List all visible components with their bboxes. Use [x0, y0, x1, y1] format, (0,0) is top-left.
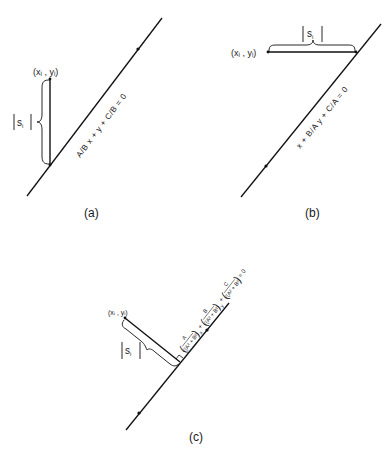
distance-segment-c	[125, 318, 180, 362]
right-angle-icon	[176, 355, 183, 359]
panel-a: si (xᵢ , yᵢ) A/B x + y + C/B = 0 (a)	[14, 18, 162, 220]
foot-point-b	[355, 51, 358, 54]
brace-icon-b	[269, 40, 355, 51]
point-xi-yi-c	[124, 317, 127, 320]
panel-c: si (xᵢ , yᵢ) ( A √(A² + B²) ) x + ( B √(…	[108, 264, 250, 444]
line-point-b	[264, 164, 267, 167]
equation-a: A/B x + y + C/B = 0	[74, 92, 128, 159]
distance-label-b: si	[307, 28, 313, 40]
distance-label-c: si	[125, 345, 131, 357]
term-b-numerator: B	[202, 307, 209, 314]
line-b	[241, 24, 381, 197]
equation-rhs: = 0	[237, 268, 247, 279]
term-a-numerator: A	[181, 334, 188, 341]
distance-label-a: si	[17, 117, 23, 129]
foot-point-a	[49, 164, 52, 167]
point-label-a: (xᵢ , yᵢ)	[33, 67, 58, 77]
point-label-b: (xᵢ , yᵢ)	[231, 48, 256, 58]
line-point-c-lower	[137, 411, 140, 414]
caption-b: (b)	[305, 206, 320, 220]
equation-b: x + B/A y + C/A = 0	[295, 85, 350, 150]
equation-c: ( A √(A² + B²) ) x + ( B √(A² + B²) ) y …	[174, 264, 250, 355]
caption-a: (a)	[84, 206, 99, 220]
point-label-c: (xᵢ , yᵢ)	[108, 309, 128, 317]
brace-icon-c	[122, 320, 179, 366]
distance-diagram: si (xᵢ , yᵢ) A/B x + y + C/B = 0 (a) si …	[0, 0, 391, 452]
caption-c: (c)	[189, 430, 203, 444]
point-xi-yi-a	[49, 78, 52, 81]
line-a	[27, 18, 162, 196]
line-c	[126, 303, 229, 430]
line-point-c-upper	[205, 328, 208, 331]
point-xi-yi-b	[267, 51, 270, 54]
brace-icon-a	[37, 80, 49, 164]
line-point-a	[136, 47, 139, 50]
panel-b: si (xᵢ , yᵢ) x + B/A y + C/A = 0 (b)	[231, 24, 381, 220]
term-c-numerator: C	[222, 281, 229, 288]
